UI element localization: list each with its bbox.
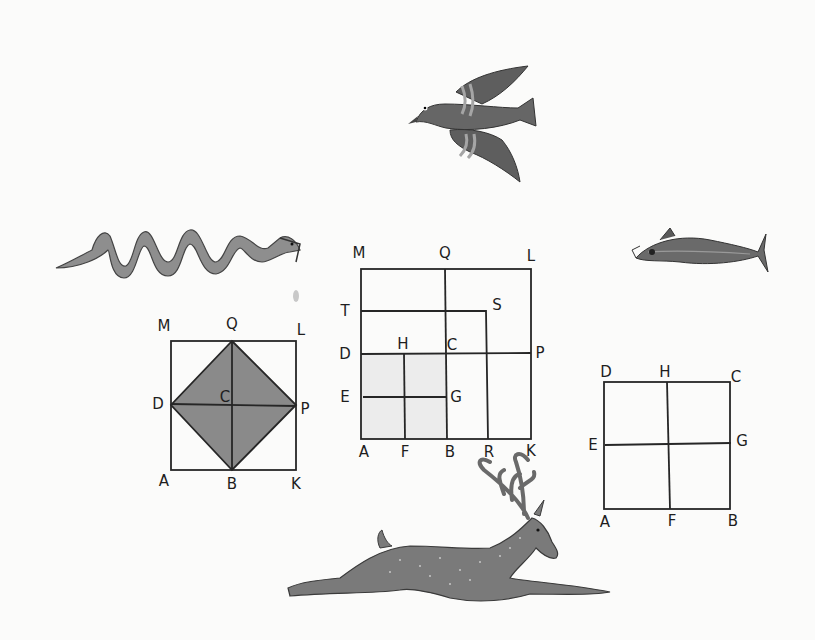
- point-label-d: D: [600, 365, 612, 380]
- point-label-f: F: [401, 445, 410, 460]
- point-label-f: F: [668, 514, 677, 529]
- point-label-k: K: [526, 444, 536, 459]
- point-label-e: E: [588, 438, 597, 453]
- point-label-l: L: [297, 323, 305, 338]
- point-label-c: C: [220, 390, 230, 405]
- point-label-d: D: [152, 397, 164, 412]
- point-label-c: C: [731, 370, 741, 385]
- left-square-diagram: [171, 341, 296, 470]
- point-label-b: B: [728, 514, 738, 529]
- serpent-illustration: [56, 230, 300, 278]
- point-label-g: G: [736, 434, 748, 449]
- point-label-c: C: [447, 338, 457, 353]
- point-label-t: T: [340, 304, 349, 319]
- point-label-s: S: [492, 298, 502, 313]
- point-label-a: A: [600, 515, 610, 530]
- point-label-k: K: [291, 477, 301, 492]
- point-label-e: E: [340, 390, 349, 405]
- point-label-b: B: [227, 477, 237, 492]
- point-label-l: L: [527, 249, 535, 264]
- point-label-g: G: [450, 390, 462, 405]
- point-label-m: M: [353, 246, 366, 261]
- point-label-h: H: [659, 365, 670, 380]
- ink-smudge: [293, 290, 299, 302]
- point-label-p: P: [535, 346, 544, 361]
- point-label-d: D: [339, 347, 351, 362]
- point-label-a: A: [159, 474, 169, 489]
- fish-illustration: [632, 228, 768, 272]
- point-label-r: R: [484, 445, 494, 460]
- bird-illustration: [408, 66, 536, 182]
- stag-illustration: [288, 454, 610, 601]
- point-label-q: Q: [226, 317, 238, 332]
- point-label-b: B: [445, 445, 455, 460]
- center-square-diagram: [361, 269, 531, 439]
- point-label-a: A: [359, 445, 369, 460]
- point-label-p: P: [300, 402, 309, 417]
- right-square-diagram: [604, 382, 731, 509]
- point-label-h: H: [397, 337, 408, 352]
- point-label-q: Q: [439, 246, 451, 261]
- point-label-m: M: [158, 319, 171, 334]
- manuscript-page: [0, 0, 815, 640]
